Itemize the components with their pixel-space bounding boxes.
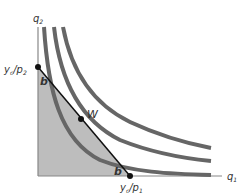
tangency-point-w	[78, 116, 84, 122]
point-b-upper-label: b	[40, 75, 48, 88]
y-axis-label: q2	[33, 13, 43, 25]
x-intercept-label: yc/p1	[119, 182, 143, 194]
y-intercept-dot	[35, 64, 41, 70]
point-w-label: W	[87, 108, 99, 121]
x-intercept-dot	[127, 173, 133, 179]
point-b-lower-label: b	[114, 165, 122, 178]
y-intercept-label: yc/p2	[3, 64, 27, 76]
indifference-curve-diagram: q2 q1 yc/p2 yc/p1 b W b	[0, 0, 245, 195]
x-axis-label: q1	[227, 171, 237, 183]
